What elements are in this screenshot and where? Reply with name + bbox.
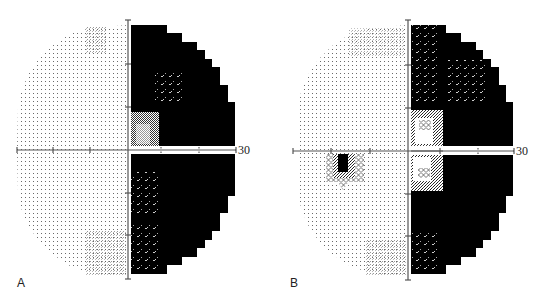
axis-end-label-b: 30	[516, 144, 528, 159]
axis-end-label-a: 30	[238, 143, 250, 158]
panel-label-a: A	[17, 276, 25, 290]
panel-label-b: B	[290, 276, 298, 290]
visual-field-panel-a: 30 A	[0, 0, 271, 299]
visual-field-panel-b: 30 B	[271, 0, 542, 299]
normal-hemifield-left-b	[293, 22, 408, 278]
visual-field-plot-a	[0, 0, 271, 299]
visual-field-plot-b	[271, 0, 542, 299]
